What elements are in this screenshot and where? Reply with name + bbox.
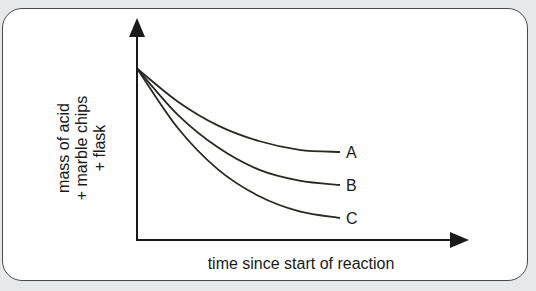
- y-axis-title-line-3: + flask: [91, 124, 108, 172]
- x-axis-title: time since start of reaction: [208, 255, 395, 272]
- series-group: [137, 68, 340, 218]
- x-axis-arrow-icon: [450, 232, 469, 248]
- y-axis-title-line-1: mass of acid: [55, 103, 72, 193]
- y-axis-title: mass of acid + marble chips + flask: [55, 96, 108, 201]
- series-label-a: A: [346, 144, 357, 161]
- series-line-b: [137, 68, 340, 185]
- y-axis-arrow-icon: [129, 18, 145, 37]
- series-line-a: [137, 68, 340, 152]
- y-axis-title-line-2: + marble chips: [73, 96, 90, 201]
- series-line-c: [137, 68, 340, 218]
- series-labels: ABC: [346, 144, 358, 227]
- series-label-b: B: [346, 177, 357, 194]
- chart: ABC time since start of reaction mass of…: [0, 0, 536, 291]
- series-label-c: C: [346, 210, 358, 227]
